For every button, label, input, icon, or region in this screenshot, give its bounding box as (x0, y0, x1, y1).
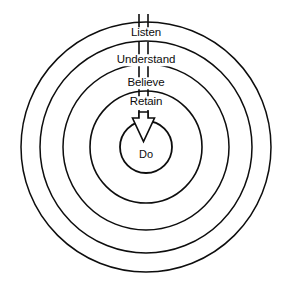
ring-label-do: Do (138, 149, 154, 160)
bullseye-diagram: Listen Understand Believe Retain Do (0, 0, 281, 282)
ring-label-retain: Retain (129, 96, 164, 108)
ring-label-understand: Understand (116, 54, 176, 66)
ring-label-believe: Believe (126, 77, 165, 89)
bullseye-canvas (0, 0, 281, 282)
ring-label-listen: Listen (130, 27, 162, 39)
arrow-head-icon (133, 112, 155, 142)
